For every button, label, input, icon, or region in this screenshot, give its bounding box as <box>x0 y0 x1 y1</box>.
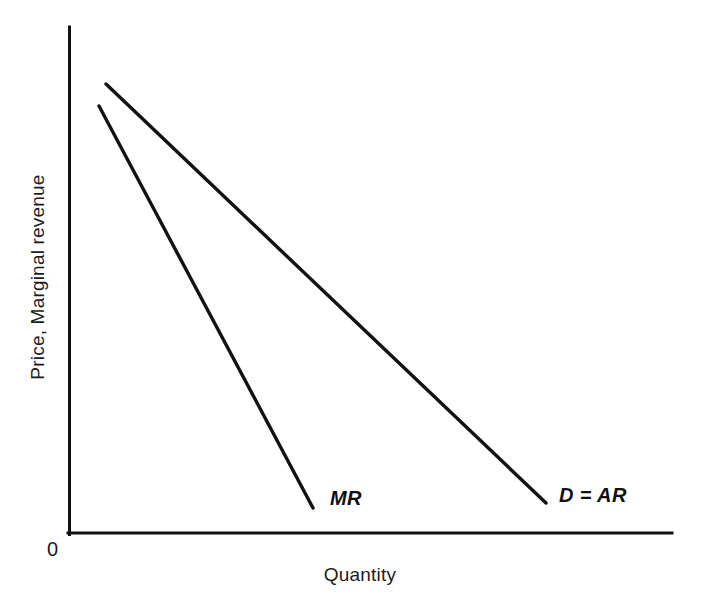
monopoly-demand-marginal-revenue-figure: Price, Marginal revenue Quantity 0 MR D … <box>0 0 702 602</box>
y-axis-title-text: Price, Marginal revenue <box>27 174 49 379</box>
x-axis-title: Quantity <box>324 564 396 586</box>
chart-plot-area <box>0 0 702 602</box>
origin-label: 0 <box>47 538 58 561</box>
demand-average-revenue-curve-label: D = AR <box>559 484 627 507</box>
marginal-revenue-curve-label: MR <box>330 487 362 510</box>
demand-average-revenue-curve-line <box>106 84 546 503</box>
marginal-revenue-curve-line <box>99 106 313 508</box>
